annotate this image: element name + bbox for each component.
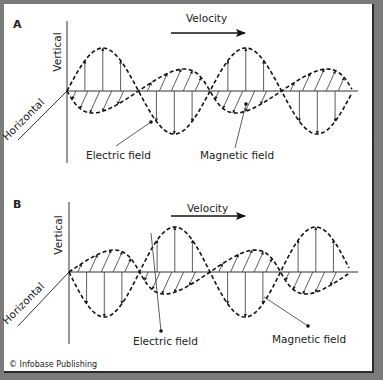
electric-field-leader (116, 122, 151, 146)
velocity-label: Velocity (187, 202, 228, 214)
em-wave-diagram: A Velocity Vertical Horizontal Electric … (0, 0, 383, 380)
electric-field-label: Electric field (133, 335, 198, 347)
panel-letter: A (13, 18, 22, 31)
electric-field-label: Electric field (86, 149, 151, 161)
electric-field-marker (159, 329, 163, 333)
stray-dot (372, 140, 374, 142)
magnetic-field-marker (306, 324, 310, 328)
vertical-axis-label: Vertical (52, 215, 64, 254)
magnetic-field-label: Magnetic field (272, 333, 346, 345)
vertical-axis-label: Vertical (51, 32, 63, 71)
panel-b: B Velocity Vertical Horizontal Electric … (0, 198, 358, 347)
magnetic-field-marker (244, 102, 248, 106)
copyright-credit: © Infobase Publishing (9, 360, 97, 369)
panel-a: A Velocity Vertical Horizontal Electric … (0, 12, 358, 163)
electric-field-leader (151, 233, 161, 331)
panel-letter: B (13, 198, 21, 211)
electric-field-marker (149, 120, 153, 124)
magnetic-field-label: Magnetic field (200, 149, 274, 161)
velocity-label: Velocity (186, 12, 227, 24)
magnetic-field-leader (235, 104, 246, 148)
magnetic-field-leader (264, 297, 308, 326)
